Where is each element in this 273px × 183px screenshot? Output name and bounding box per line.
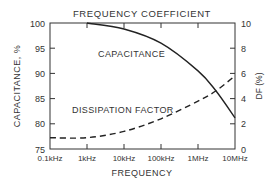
y-axis-label: CAPACITANCE, % [12, 45, 22, 128]
y-tick-label: 75 [35, 145, 45, 155]
y-tick-label: 100 [30, 19, 45, 29]
y-tick-label: 85 [35, 94, 45, 104]
x-tick-label: 100kHz [147, 154, 174, 163]
x-tick-label: 10kHz [113, 154, 136, 163]
x-tick-label: 0.1kHz [38, 154, 63, 163]
y-tick-label: 95 [35, 44, 45, 54]
y2-tick-label: 10 [241, 19, 251, 29]
capacitance-line [87, 23, 235, 118]
y-axis-right: 0246810 [230, 19, 251, 155]
x-tick-label: 1MHz [188, 154, 209, 163]
y2-tick-label: 4 [241, 94, 246, 104]
y2-tick-label: 6 [241, 69, 246, 79]
chart-title: FREQUENCY COEFFICIENT [73, 8, 211, 19]
y-tick-label: 90 [35, 69, 45, 79]
y2-tick-label: 0 [241, 145, 246, 155]
plot-frame [50, 23, 235, 149]
x-axis-label: FREQUENCY [111, 168, 172, 178]
y-axis-left: 7580859095100 [30, 19, 55, 155]
y2-axis-label: DF (%) [254, 72, 264, 99]
y2-tick-label: 8 [241, 44, 246, 54]
x-tick-label: 10MHz [222, 154, 247, 163]
capacitance-annotation: CAPACITANCE [98, 49, 165, 59]
dissipation-factor-annotation: DISSIPATION FACTOR [72, 105, 174, 115]
x-axis: 0.1kHz1kHz10kHz100kHz1MHz10MHz [38, 23, 248, 163]
x-tick-label: 1kHz [78, 154, 96, 163]
chart: FREQUENCY COEFFICIENT 0.1kHz1kHz10kHz100… [0, 0, 273, 183]
y2-tick-label: 2 [241, 119, 246, 129]
y-tick-label: 80 [35, 119, 45, 129]
